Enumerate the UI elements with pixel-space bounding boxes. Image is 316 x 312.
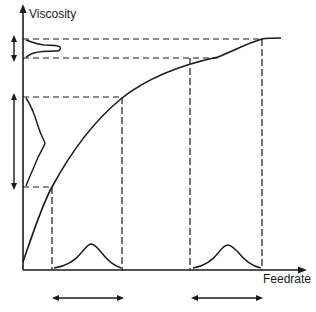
viscosity-range-arrow-low xyxy=(11,93,17,190)
y-axis-arrowhead xyxy=(20,4,27,13)
feedrate-distribution-high xyxy=(193,245,261,268)
viscosity-range-arrow-high xyxy=(11,35,17,62)
y-axis-label: Viscosity xyxy=(29,7,76,21)
x-axis-label: Feedrate xyxy=(263,272,311,286)
viscosity-distribution-low xyxy=(26,98,45,186)
feedrate-range-arrow-high xyxy=(191,295,263,301)
diagram: Viscosity Feedrate xyxy=(0,0,316,312)
viscosity-distribution-high xyxy=(26,40,60,57)
feedrate-range-arrow-low xyxy=(52,295,124,301)
feedrate-distribution-low xyxy=(54,244,121,268)
response-curve xyxy=(23,38,281,262)
